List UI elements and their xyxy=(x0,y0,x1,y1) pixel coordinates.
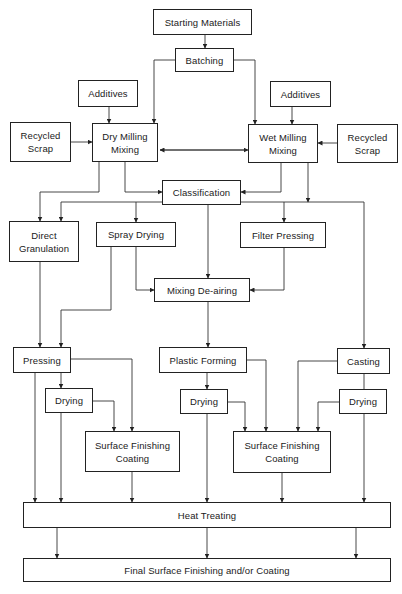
node-surface-finishing-left: Surface Finishing Coating xyxy=(85,431,180,472)
node-classification: Classification xyxy=(162,180,241,205)
node-batching: Batching xyxy=(175,48,234,72)
node-surface-finishing-right: Surface Finishing Coating xyxy=(233,431,331,473)
node-drying-middle: Drying xyxy=(180,389,228,414)
node-plastic-forming: Plastic Forming xyxy=(159,347,247,373)
node-wet-milling-mixing: Wet Milling Mixing xyxy=(248,124,318,163)
node-filter-pressing: Filter Pressing xyxy=(240,222,326,248)
node-final-surface-finishing: Final Surface Finishing and/or Coating xyxy=(23,558,391,582)
node-drying-left: Drying xyxy=(45,388,93,413)
node-dry-milling-mixing: Dry Milling Mixing xyxy=(92,123,158,162)
node-recycled-scrap-left: Recycled Scrap xyxy=(10,122,71,162)
node-additives-left: Additives xyxy=(78,80,138,107)
node-heat-treating: Heat Treating xyxy=(23,502,391,528)
node-mixing-deairing: Mixing De-airing xyxy=(154,278,250,302)
node-casting: Casting xyxy=(337,348,390,374)
node-additives-right: Additives xyxy=(270,81,331,107)
flowchart-canvas: Starting Materials Batching Additives Ad… xyxy=(0,0,402,594)
node-recycled-scrap-right: Recycled Scrap xyxy=(337,124,398,163)
node-drying-right: Drying xyxy=(339,389,387,414)
node-direct-granulation: Direct Granulation xyxy=(9,221,79,262)
node-starting-materials: Starting Materials xyxy=(153,9,252,35)
node-spray-drying: Spray Drying xyxy=(96,222,176,247)
node-pressing: Pressing xyxy=(13,347,71,373)
